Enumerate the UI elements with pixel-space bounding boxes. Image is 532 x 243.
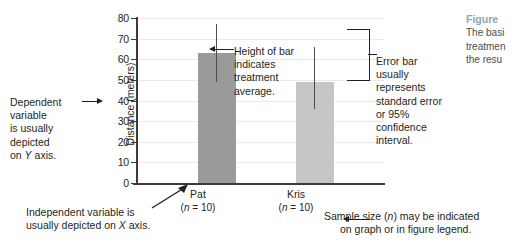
annotation-sample-size: Sample size (n) may be indicated on grap… bbox=[324, 210, 532, 236]
gridline-30 bbox=[136, 121, 384, 122]
annotation-error-line-5: confidence bbox=[376, 121, 450, 134]
annotation-dependent-line-0: Dependent bbox=[10, 96, 82, 109]
figure-caption-line-0: The basi bbox=[466, 26, 532, 40]
annotation-dependent-line-2: is usually bbox=[10, 122, 82, 135]
annotation-error-line-3: standard error bbox=[376, 95, 450, 108]
annotation-height-line-0: Height of bar bbox=[234, 45, 310, 58]
annotation-error-line-1: usually bbox=[376, 68, 450, 81]
annotation-samplesize-line-1: on graph or in figure legend. bbox=[340, 223, 532, 236]
arrow-left-icon bbox=[209, 46, 215, 52]
annotation-independent-line-1: usually depicted on X axis. bbox=[26, 219, 176, 232]
annotation-samplesize-line-0: Sample size (n) may be indicated bbox=[324, 210, 532, 223]
annotation-error-line-6: interval. bbox=[376, 134, 450, 147]
annotation-error-line-2: represents bbox=[376, 81, 450, 94]
xcat-kris-name: Kris bbox=[258, 188, 334, 201]
xcat-kris-n: (n = 10) bbox=[258, 201, 334, 214]
y-tick-80 bbox=[131, 18, 136, 19]
y-axis-title-wrap: Distance (meters) bbox=[104, 20, 118, 180]
arrow-dependent-shaft bbox=[82, 101, 98, 102]
figure-caption-title: Figure bbox=[466, 12, 532, 26]
annotation-height-line-3: average. bbox=[234, 85, 310, 98]
annotation-error-line-0: Error bar bbox=[376, 55, 450, 68]
figure-caption-line-2: the resu bbox=[466, 53, 532, 67]
y-tick-70 bbox=[131, 39, 136, 40]
figure-caption-body: The basi treatmen the resu bbox=[466, 26, 532, 67]
annotation-height-line-1: indicates bbox=[234, 58, 310, 71]
annotation-independent-variable: Independent variable is usually depicted… bbox=[26, 206, 176, 232]
arrow-right-icon bbox=[97, 98, 103, 104]
y-tick-0 bbox=[131, 183, 136, 184]
annotation-height-line-2: treatment bbox=[234, 71, 310, 84]
figure-caption-line-1: treatmen bbox=[466, 40, 532, 54]
arrow-height-shaft bbox=[214, 49, 234, 50]
bracket-error-bar bbox=[347, 29, 370, 81]
annotation-dependent-line-4: on Y axis. bbox=[10, 149, 82, 162]
y-axis-title: Distance (meters) bbox=[124, 42, 136, 166]
annotation-dependent-line-1: variable bbox=[10, 109, 82, 122]
gridline-10 bbox=[136, 162, 384, 163]
errorbar-pat bbox=[216, 24, 217, 82]
annotation-independent-line-0: Independent variable is bbox=[26, 206, 176, 219]
errorbar-kris bbox=[314, 47, 315, 109]
annotation-error-bar: Error bar usually represents standard er… bbox=[376, 55, 450, 147]
gridline-20 bbox=[136, 142, 384, 143]
annotation-height-of-bar: Height of bar indicates treatment averag… bbox=[234, 45, 310, 98]
annotation-dependent-line-3: depicted bbox=[10, 136, 82, 149]
annotation-error-line-4: or 95% bbox=[376, 108, 450, 121]
xcat-kris: Kris (n = 10) bbox=[258, 188, 334, 214]
y-axis-line bbox=[136, 17, 138, 184]
gridline-40 bbox=[136, 101, 384, 102]
gridline-80 bbox=[136, 18, 384, 19]
figure-caption: Figure The basi treatmen the resu bbox=[466, 12, 532, 67]
annotation-dependent-variable: Dependent variable is usually depicted o… bbox=[10, 96, 82, 162]
